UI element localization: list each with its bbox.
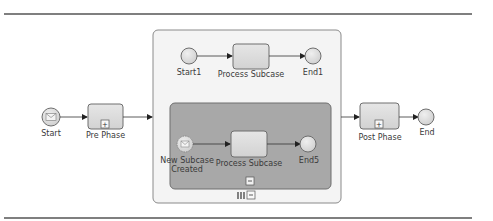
post-phase-task[interactable]: + xyxy=(360,103,399,129)
end1-event[interactable] xyxy=(305,48,321,64)
end5-event[interactable] xyxy=(300,136,316,152)
end-event[interactable] xyxy=(418,109,434,125)
outer-collapse-marker-icon[interactable] xyxy=(247,191,255,199)
svg-text:+: + xyxy=(102,121,108,129)
start-label: Start xyxy=(41,129,61,138)
new-subcase-label-line1: New Subcase xyxy=(160,156,214,165)
start1-label: Start1 xyxy=(177,68,202,77)
new-subcase-label-line2: Created xyxy=(171,165,203,174)
expand-marker-icon[interactable]: + xyxy=(375,120,383,129)
start-event[interactable] xyxy=(42,108,60,126)
envelope-icon xyxy=(46,114,56,121)
pre-phase-task[interactable]: + xyxy=(88,104,123,129)
expand-marker-icon[interactable]: + xyxy=(101,120,109,129)
envelope-icon xyxy=(181,141,189,147)
new-subcase-start-event[interactable] xyxy=(177,136,193,152)
end1-label: End1 xyxy=(303,68,323,77)
svg-text:+: + xyxy=(376,121,382,129)
start1-event[interactable] xyxy=(181,48,197,64)
bpmn-diagram: Start + Pre Phase Start1 Process Subcase… xyxy=(0,0,493,221)
end5-label: End5 xyxy=(299,156,319,165)
process-subcase-task-inner[interactable] xyxy=(231,131,267,157)
process-subcase-inner-label: Process Subcase xyxy=(216,159,283,168)
inner-collapse-marker-icon[interactable] xyxy=(246,177,254,185)
end-label: End xyxy=(419,128,434,137)
process-subcase-task-top[interactable] xyxy=(233,44,269,69)
process-subcase-top-label: Process Subcase xyxy=(218,70,285,79)
post-phase-label: Post Phase xyxy=(358,133,401,142)
pre-phase-label: Pre Phase xyxy=(86,131,125,140)
